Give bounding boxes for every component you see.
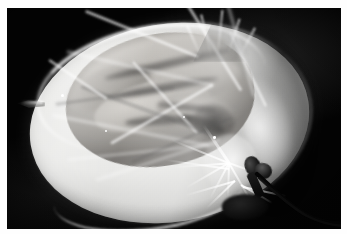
plastic-fold	[48, 59, 108, 101]
plate-lower-rim	[49, 147, 246, 229]
chicken-crease	[107, 74, 219, 101]
plastic-fold	[52, 113, 210, 148]
film-specular-dot	[105, 130, 107, 132]
chicken-back-lobe	[77, 20, 236, 111]
photo-image	[7, 8, 341, 229]
plastic-spike	[227, 163, 230, 197]
plastic-spike	[202, 124, 230, 164]
plastic-spike	[228, 162, 252, 201]
chicken-crease	[125, 114, 195, 128]
chicken-wing-lobe	[63, 54, 157, 121]
plastic-spike	[241, 184, 273, 204]
plastic-spike	[209, 163, 230, 199]
plastic-spike	[243, 186, 286, 197]
plastic-crinkle	[55, 86, 174, 107]
film-grain	[7, 8, 341, 229]
chicken-crease	[157, 101, 217, 114]
chicken-crease	[104, 45, 232, 82]
plastic-spike	[173, 162, 229, 168]
plastic-fold	[110, 83, 214, 145]
plastic-wrap-horn	[185, 8, 267, 62]
black-backdrop	[7, 8, 341, 229]
twist-tie-shadow-blob	[220, 191, 269, 223]
plastic-horn-streak	[200, 14, 212, 53]
plastic-spike	[165, 159, 229, 170]
plastic-fold	[96, 138, 221, 182]
plastic-horn-streak	[217, 10, 224, 56]
plastic-fold	[67, 142, 217, 162]
plastic-fold	[229, 32, 268, 107]
plastic-spike	[206, 180, 236, 209]
plastic-spike	[171, 139, 229, 164]
plastic-gather-burst	[203, 134, 257, 192]
plastic-fold	[181, 8, 243, 92]
plastic-spike	[185, 180, 236, 196]
film-specular-dot	[61, 94, 64, 97]
plastic-horn-streak	[240, 27, 255, 54]
vignette	[7, 8, 341, 229]
plastic-spike	[185, 162, 229, 189]
twist-tie-clip	[242, 154, 263, 180]
plastic-crinkle	[131, 116, 233, 164]
twist-tie-knob	[253, 161, 274, 180]
plastic-fold	[225, 8, 256, 97]
chicken-drumstick-lobe	[155, 89, 235, 135]
plastic-fold	[66, 49, 213, 88]
white-plate	[15, 8, 324, 229]
twist-tie-stem	[246, 171, 265, 198]
plastic-wrap-sheen	[15, 8, 328, 229]
cord	[253, 164, 341, 229]
plate-shadow-side	[193, 21, 329, 226]
film-specular-dot	[183, 116, 185, 118]
photograph-canvas: Raw whole chicken on a white plate wrapp…	[0, 0, 347, 234]
film-specular-dot	[213, 136, 216, 139]
chicken-thigh-lobe	[89, 68, 215, 143]
plastic-wisp-highlight	[21, 101, 43, 104]
chicken-cavity-shadow	[190, 99, 239, 142]
chicken-crease	[178, 111, 225, 137]
plastic-fold	[132, 61, 198, 134]
plate-upper-rim	[25, 8, 277, 171]
plastic-wisp-left	[17, 96, 45, 112]
chicken-body	[57, 21, 264, 178]
plastic-crinkle	[80, 84, 213, 137]
plate-rim-highlight	[232, 74, 302, 179]
plastic-fold	[85, 9, 200, 58]
plastic-horn-streak	[186, 25, 202, 57]
plastic-horn-streak	[227, 19, 240, 54]
plate-shadow	[11, 8, 329, 229]
chicken-breast-lobe	[92, 48, 244, 121]
plastic-spike	[229, 162, 258, 174]
